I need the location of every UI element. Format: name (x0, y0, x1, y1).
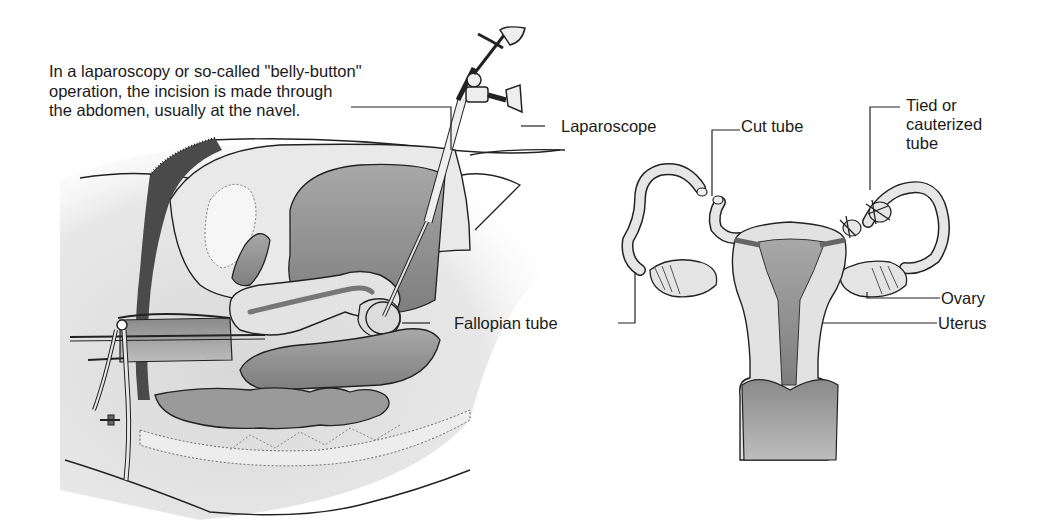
caption-line-1: In a laparoscopy or so-called "belly-but… (49, 62, 362, 82)
uterus-frontal (628, 169, 945, 460)
label-tied-tube-line-3: tube (906, 134, 982, 153)
procedure-caption: In a laparoscopy or so-called "belly-but… (49, 62, 362, 121)
label-tied-tube-line-2: cauterized (906, 115, 982, 134)
label-fallopian-tube: Fallopian tube (454, 314, 558, 333)
caption-line-3: the abdomen, usually at the navel. (49, 101, 362, 121)
label-cut-tube: Cut tube (741, 117, 803, 136)
label-tied-tube-line-1: Tied or (906, 96, 982, 115)
label-laparoscope: Laparoscope (561, 117, 656, 136)
caption-line-2: operation, the incision is made through (49, 82, 362, 102)
label-ovary: Ovary (941, 289, 985, 308)
label-tied-tube: Tied or cauterized tube (906, 96, 982, 153)
label-uterus: Uterus (938, 314, 987, 333)
